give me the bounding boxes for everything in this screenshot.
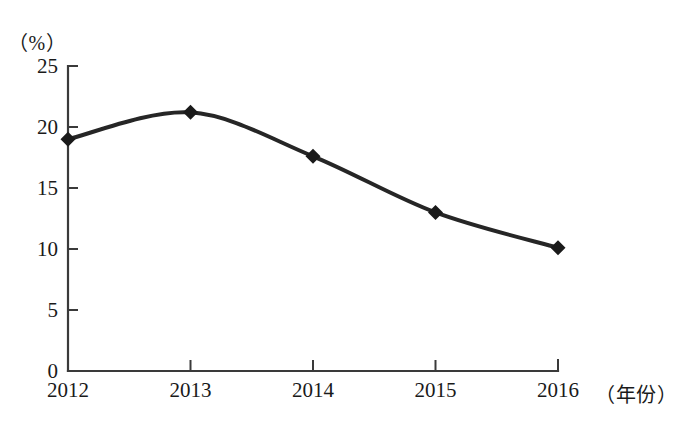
x-tick-label: 2012 (23, 380, 113, 401)
data-series-line (68, 112, 558, 248)
x-tick-label: 2014 (268, 380, 358, 401)
data-point-markers (61, 105, 566, 255)
y-tick-label: 10 (14, 239, 58, 260)
y-tick-label: 15 (14, 178, 58, 199)
x-tick-label: 2016 (513, 380, 603, 401)
y-tick-label: 25 (14, 56, 58, 77)
line-chart-plot (0, 0, 697, 432)
x-tick-label: 2013 (146, 380, 236, 401)
y-axis-tick-marks (68, 66, 78, 310)
axes-group (68, 66, 558, 371)
data-point-marker (61, 132, 76, 147)
data-point-marker (551, 240, 566, 255)
chart-container: （%） （年份） 0510152025 20122013201420152016 (0, 0, 697, 432)
data-point-marker (428, 205, 443, 220)
x-axis-tick-marks (191, 360, 436, 371)
x-tick-label: 2015 (391, 380, 481, 401)
data-point-marker (306, 149, 321, 164)
y-tick-label: 5 (14, 300, 58, 321)
y-tick-label: 20 (14, 117, 58, 138)
data-point-marker (183, 105, 198, 120)
